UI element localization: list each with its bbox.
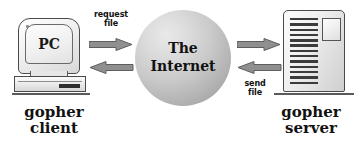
computer-base [14, 76, 86, 92]
server-caption: gopher server [258, 104, 364, 136]
pc-screen-label: PC [26, 36, 72, 52]
internet-sphere-icon: The Internet [135, 10, 231, 106]
server-panel [322, 18, 341, 41]
diagram-canvas: PC gopher client The Internet gop [0, 0, 364, 150]
arrow-send-file [236, 61, 282, 74]
client-caption: gopher client [0, 104, 108, 136]
send-file-label: send file [230, 80, 280, 97]
client-ground-line [12, 93, 90, 95]
request-file-label: request file [82, 11, 140, 28]
arrow-internet-to-client [88, 61, 134, 74]
server-tower-icon [283, 10, 347, 96]
monitor-bezel: PC [18, 18, 80, 74]
monitor-indicator-icon [26, 25, 29, 28]
server-chassis [283, 10, 345, 92]
monitor-screen: PC [25, 24, 73, 64]
server-ground-line [274, 93, 354, 95]
server-vent-slots [290, 18, 318, 84]
arrow-request-file [89, 38, 133, 51]
internet-label: The Internet [135, 40, 231, 75]
base-seam [18, 81, 82, 82]
arrow-internet-to-server [237, 38, 281, 51]
drive-slot-icon [59, 84, 80, 88]
desktop-computer-icon: PC [12, 18, 90, 96]
